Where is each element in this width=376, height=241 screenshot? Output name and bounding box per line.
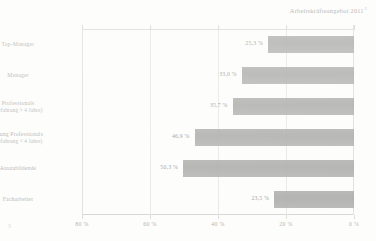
gridline (150, 29, 151, 215)
bar-value-label: 23,5 % (251, 195, 269, 201)
category-label: Professionals(Erfahrung > 4 Jahre) (0, 100, 78, 115)
bar-row: 25,3 % (82, 36, 354, 53)
gridline (218, 29, 219, 215)
bar-row: 23,5 % (82, 191, 354, 208)
bar-value-label: 50,3 % (160, 164, 178, 170)
x-axis-tick-bottom (218, 215, 219, 219)
bar-row: 50,3 % (82, 160, 354, 177)
x-axis-tick (286, 25, 287, 30)
x-tick-label: 80 % (75, 221, 88, 227)
category-label-main: Auszubildende (0, 165, 36, 171)
category-label-main: Manager (7, 72, 28, 78)
bar-value-label: 35,7 % (210, 102, 228, 108)
bar-value-label: 25,3 % (245, 40, 263, 46)
bar-row: 46,9 % (82, 129, 354, 146)
chart-title-footnote-marker: 2 (365, 6, 367, 11)
bar-row: 33,0 % (82, 67, 354, 84)
x-axis-tick-bottom (286, 215, 287, 219)
category-label-main: Professionals (2, 100, 35, 106)
category-label-main: Facharbeiter (3, 196, 34, 202)
bar[interactable] (183, 160, 354, 177)
chart-title: Arbeitskräfteangebot 20112 (290, 6, 367, 14)
plot-area: 25,3 %33,0 %35,7 %46,9 %50,3 %23,5 % (82, 29, 354, 215)
axis-line-right (353, 25, 354, 215)
gridline (286, 29, 287, 215)
category-label-sub: (Erfahrung > 4 Jahre) (0, 107, 78, 114)
bar[interactable] (233, 98, 354, 115)
x-axis-tick-bottom (150, 215, 151, 219)
x-axis-tick (354, 25, 355, 30)
x-axis-tick (218, 25, 219, 30)
bar[interactable] (242, 67, 354, 84)
x-tick-label: 0 % (349, 221, 359, 227)
category-label: Manager (0, 72, 78, 79)
bar-row: 35,7 % (82, 98, 354, 115)
chart-title-text: Arbeitskräfteangebot (290, 7, 351, 14)
x-tick-label: 20 % (279, 221, 292, 227)
bar[interactable] (195, 129, 354, 146)
bar[interactable] (268, 36, 354, 53)
category-label: Top-Manager (0, 41, 78, 48)
category-label: Facharbeiter (0, 196, 78, 203)
x-axis-tick (82, 25, 83, 30)
axis-line-left (82, 25, 83, 215)
category-label-main: Young Professionals (0, 131, 43, 137)
category-label-main: Top-Manager (2, 41, 35, 47)
x-tick-label: 40 % (211, 221, 224, 227)
category-label: Auszubildende (0, 165, 78, 172)
x-axis-tick (150, 25, 151, 30)
bar[interactable] (274, 191, 354, 208)
chart-root: Arbeitskräfteangebot 20112 25,3 %33,0 %3… (0, 0, 376, 241)
x-axis-tick-bottom (82, 215, 83, 219)
bar-value-label: 33,0 % (219, 71, 237, 77)
bar-value-label: 46,9 % (172, 133, 190, 139)
category-label: Young Professionals(Erfahrung < 4 Jahre) (0, 131, 78, 146)
x-axis-tick-bottom (354, 215, 355, 219)
category-label-sub: (Erfahrung < 4 Jahre) (0, 138, 78, 145)
x-tick-label: 60 % (143, 221, 156, 227)
chart-title-year: 2011 (351, 7, 364, 14)
page-corner-mark: 3 (8, 223, 11, 229)
